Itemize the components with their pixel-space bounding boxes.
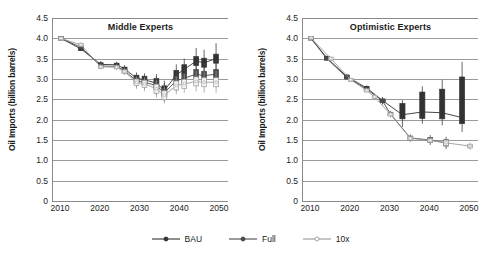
y-tick-label: 4.0 [14,34,48,42]
x-tick-label: 2020 [335,203,365,213]
y-tick-label: 1.0 [264,156,298,164]
y-tick-label: 3.5 [14,55,48,63]
data-point-marker [329,57,332,60]
x-tick-label: 2030 [125,203,155,213]
chart-panel-optimistic-experts: Oil Imports (billion barrels) 4.54.03.53… [250,0,500,225]
data-point-marker [79,43,82,46]
data-point-marker [326,57,329,60]
y-tick-label: 0 [14,197,48,205]
x-tick-label: 2040 [164,203,194,213]
x-tick-label: 2020 [85,203,115,213]
y-axis-ticks-left: 4.54.03.53.02.52.01.51.00.50 [14,0,48,210]
data-point-marker [441,111,444,114]
y-tick-label: 2.5 [14,95,48,103]
y-tick-label: 3.0 [264,75,298,83]
x-tick-label: 2050 [454,203,484,213]
x-tick-label: 2030 [375,203,405,213]
series-layer-right [303,18,478,201]
y-tick-label: 1.5 [14,136,48,144]
data-point-marker [215,81,218,84]
data-point-marker [115,66,118,69]
y-tick-label: 2.5 [264,95,298,103]
data-point-marker [183,83,186,86]
x-tick-label: 2010 [45,203,75,213]
x-axis-ticks-right: 20102020203020402050 [302,203,477,217]
legend-item-bau[interactable]: BAU [151,234,202,244]
data-point-marker [445,141,448,144]
plot-area-optimistic-experts: Optimistic Experts [302,18,478,202]
x-tick-label: 2010 [295,203,325,213]
legend-item-full[interactable]: Full [228,234,276,244]
data-point-marker [155,87,158,90]
y-tick-label: 2.0 [14,116,48,124]
series-bau [309,37,465,132]
legend-marker-icon [151,234,181,244]
data-point-marker [203,81,206,84]
data-point-marker [310,37,313,40]
y-tick-label: 3.5 [264,55,298,63]
data-point-marker [365,89,368,92]
data-point-marker [389,113,392,116]
y-tick-label: 1.0 [14,156,48,164]
y-tick-label: 4.0 [264,34,298,42]
data-point-marker [163,94,166,97]
y-tick-label: 0 [264,197,298,205]
y-tick-label: 4.5 [264,14,298,22]
legend-item-10x[interactable]: 10x [302,234,350,244]
y-tick-label: 1.5 [264,136,298,144]
data-point-marker [409,137,412,140]
y-tick-label: 0.5 [14,177,48,185]
y-tick-label: 4.5 [14,14,48,22]
chart-panel-middle-experts: Oil Imports (billion barrels) 4.54.03.53… [0,0,250,225]
plot-area-middle-experts: Middle Experts [52,18,228,202]
series-full [309,37,449,149]
series-layer-left [53,18,228,201]
data-point-marker [381,100,384,103]
chart-legend: BAUFull10x [0,228,500,250]
x-tick-label: 2050 [204,203,234,213]
legend-label: BAU [185,234,202,244]
series-10x [309,36,473,149]
legend-marker-icon [302,234,332,244]
y-axis-ticks-right: 4.54.03.53.02.52.01.51.00.50 [264,0,298,210]
data-point-marker [373,96,376,99]
data-point-marker [349,78,352,81]
legend-marker-icon [228,234,258,244]
y-tick-label: 3.0 [14,75,48,83]
data-point-marker [461,116,464,119]
data-point-marker [175,84,178,87]
data-point-marker [469,145,472,148]
legend-label: 10x [336,234,350,244]
data-point-marker [195,80,198,83]
y-tick-label: 2.0 [264,116,298,124]
data-point-marker [429,139,432,142]
figure-root: Oil Imports (billion barrels) 4.54.03.53… [0,0,500,253]
legend-label: Full [262,234,276,244]
x-tick-label: 2040 [414,203,444,213]
data-point-marker [401,113,404,116]
data-point-marker [421,111,424,114]
data-point-marker [143,83,146,86]
data-point-marker [135,81,138,84]
y-tick-label: 0.5 [264,177,298,185]
data-point-marker [123,70,126,73]
data-point-marker [60,37,63,40]
data-point-marker [99,65,102,68]
x-axis-ticks-left: 20102020203020402050 [52,203,227,217]
